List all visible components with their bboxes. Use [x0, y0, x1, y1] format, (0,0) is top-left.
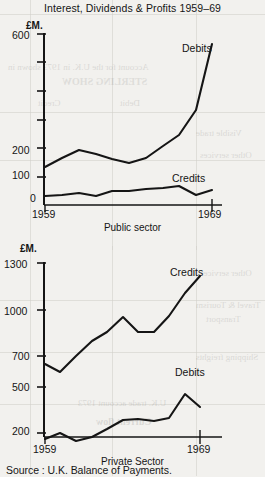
- top-chart-series-credits: [45, 186, 212, 196]
- top-chart-series-debits: [45, 44, 212, 167]
- bottom-chart-svg: [0, 240, 265, 450]
- bottom-chart-plot: [0, 240, 265, 450]
- top-chart-caption: Public sector: [0, 222, 265, 233]
- top-chart-svg: [0, 0, 265, 215]
- bottom-chart-xtick-label-1959: 1959: [33, 443, 56, 455]
- top-chart-label-debits: Debits: [182, 42, 212, 54]
- top-chart-plot: [0, 0, 265, 215]
- bottom-chart-label-credits: Credits: [170, 266, 203, 278]
- scanned-figure-page: Account for the U.K. in 1973 shown in ST…: [0, 0, 265, 477]
- top-chart-label-credits: Credits: [172, 172, 205, 184]
- bottom-chart-series-debits: [45, 394, 200, 441]
- bottom-chart-xtick-label-1969: 1969: [187, 443, 210, 455]
- bottom-chart-series-credits: [45, 276, 200, 372]
- bottom-chart-label-debits: Debits: [175, 366, 205, 378]
- top-chart-xtick-label-1969: 1969: [198, 208, 221, 220]
- top-chart-xtick-label-1959: 1959: [32, 208, 55, 220]
- source-note: Source : U.K. Balance of Payments.: [6, 464, 172, 476]
